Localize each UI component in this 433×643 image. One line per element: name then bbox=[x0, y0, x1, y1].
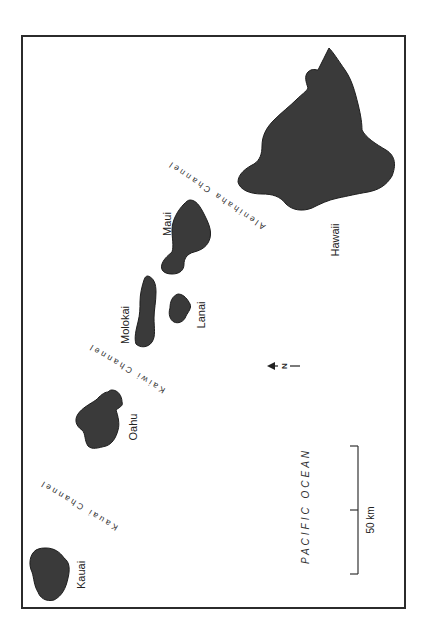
label-kaiwi-channel: Kaiwi Channel bbox=[86, 342, 167, 396]
scale-label: 50 km bbox=[365, 506, 376, 533]
label-kauai-channel: Kauai Channel bbox=[37, 478, 119, 533]
north-label: N bbox=[280, 363, 289, 369]
hawaii-map: Hawaii Maui Molokai Lanai Oahu Kauai Ale… bbox=[0, 0, 433, 643]
label-oahu: Oahu bbox=[127, 414, 139, 441]
label-lanai: Lanai bbox=[195, 302, 207, 329]
label-kauai: Kauai bbox=[75, 561, 87, 589]
ocean-label: PACIFIC OCEAN bbox=[300, 448, 311, 564]
island-hawaii bbox=[238, 48, 394, 210]
label-molokai: Molokai bbox=[119, 306, 131, 344]
island-oahu bbox=[76, 390, 122, 448]
island-maui bbox=[161, 200, 210, 274]
island-molokai bbox=[135, 276, 156, 347]
label-maui: Maui bbox=[161, 212, 173, 236]
island-kauai bbox=[30, 548, 69, 601]
scale-bar bbox=[350, 446, 358, 574]
label-hawaii: Hawaii bbox=[329, 223, 341, 256]
island-lanai bbox=[169, 294, 190, 323]
